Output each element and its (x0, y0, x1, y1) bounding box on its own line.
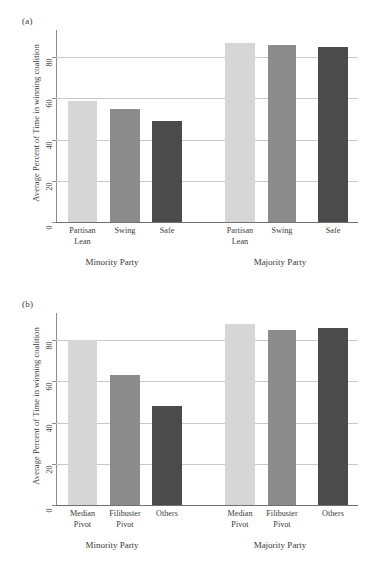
x-axis-tick-label: Safe (307, 226, 359, 237)
y-axis-tick-label: 40 (45, 137, 54, 153)
gridline (56, 464, 358, 465)
x-axis-tick-label: Swing (256, 226, 308, 237)
bar (152, 406, 182, 505)
panel-a: (a) Average Percent of Time in winning c… (0, 0, 372, 283)
bar (110, 109, 140, 222)
panel-a-y-axis-title: Average Percent of Time in winning coali… (31, 23, 41, 223)
bar (152, 121, 182, 222)
group-label: Majority Party (230, 257, 330, 267)
gridline (56, 181, 358, 182)
bar (318, 328, 348, 505)
group-label: Minority Party (62, 257, 162, 267)
gridline (56, 340, 358, 341)
panel-b-x-axis-line (55, 505, 358, 506)
bar (68, 101, 97, 222)
bar (318, 47, 348, 222)
x-axis-tick-label: Others (141, 509, 193, 520)
group-label: Minority Party (62, 540, 162, 550)
x-axis-tick-label: Others (307, 509, 359, 520)
y-axis-tick-label: 60 (45, 96, 54, 112)
y-axis-tick-label: 60 (45, 379, 54, 395)
panel-a-x-axis-line (55, 222, 358, 223)
bar (268, 330, 296, 505)
gridline (56, 98, 358, 99)
x-axis-tick-label: Filibuster Pivot (256, 509, 308, 530)
y-axis-tick-label: 80 (45, 55, 54, 71)
bar (68, 340, 97, 505)
bar (110, 375, 140, 505)
panel-b: (b) Average Percent of Time in winning c… (0, 283, 372, 566)
y-axis-tick-label: 0 (45, 503, 54, 519)
y-axis-tick-label: 80 (45, 338, 54, 354)
panel-b-y-axis-title: Average Percent of Time in winning coali… (31, 306, 41, 506)
gridline (56, 57, 358, 58)
gridline (56, 423, 358, 424)
panel-b-plot-area: 020406080 (56, 313, 358, 505)
panel-a-plot-area: 020406080 (56, 30, 358, 222)
y-axis-tick-label: 20 (45, 461, 54, 477)
group-label: Majority Party (230, 540, 330, 550)
panel-b-y-axis-line (56, 313, 57, 505)
gridline (56, 140, 358, 141)
panel-a-y-axis-line (56, 30, 57, 222)
y-axis-tick-label: 20 (45, 178, 54, 194)
y-axis-tick-label: 40 (45, 420, 54, 436)
bar (268, 45, 296, 222)
bar (225, 324, 255, 505)
bar (225, 43, 255, 222)
y-axis-tick-label: 0 (45, 220, 54, 236)
x-axis-tick-label: Safe (141, 226, 193, 237)
gridline (56, 381, 358, 382)
